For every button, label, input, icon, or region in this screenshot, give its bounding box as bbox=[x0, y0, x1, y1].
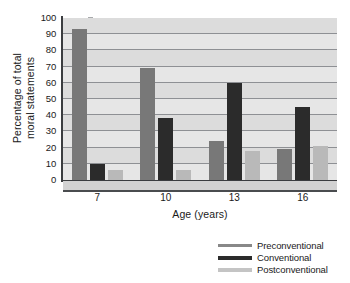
x-tick-label: 13 bbox=[229, 192, 240, 204]
bar-conventional-age-16 bbox=[295, 107, 310, 180]
y-tick-label: 80 bbox=[30, 46, 56, 56]
y-tick-label: 10 bbox=[30, 159, 56, 169]
y-axis-title-line-1: Percentage of total bbox=[11, 53, 24, 143]
legend-swatch-conventional bbox=[218, 256, 252, 260]
plot-band bbox=[63, 67, 337, 83]
y-tick-label: 100 bbox=[30, 13, 56, 23]
x-axis-title: Age (years) bbox=[63, 208, 337, 220]
x-axis-tick-labels: 7101316 bbox=[63, 192, 337, 206]
legend-label: Preconventional bbox=[257, 241, 324, 251]
y-tick-label: 40 bbox=[30, 110, 56, 120]
plot-band bbox=[63, 34, 337, 50]
gridline bbox=[63, 82, 337, 83]
bar-postconventional-age-10 bbox=[176, 170, 191, 180]
bar-conventional-age-7 bbox=[90, 164, 105, 180]
bar-postconventional-age-13 bbox=[245, 151, 260, 180]
x-tick-label: 7 bbox=[95, 192, 100, 204]
legend-swatch-preconventional bbox=[218, 244, 252, 247]
y-axis-tick-labels: 0102030405060708090100 bbox=[30, 18, 56, 180]
legend-item-preconventional: Preconventional bbox=[218, 240, 328, 251]
gridline bbox=[63, 66, 337, 67]
bar-preconventional-age-16 bbox=[277, 149, 292, 180]
legend-swatch-postconventional bbox=[218, 268, 252, 272]
y-tick-label: 50 bbox=[30, 94, 56, 104]
bar-preconventional-age-13 bbox=[209, 141, 224, 180]
y-tick-label: 60 bbox=[30, 78, 56, 88]
legend-item-conventional: Conventional bbox=[218, 252, 328, 263]
bar-conventional-age-10 bbox=[158, 118, 173, 180]
gridline bbox=[63, 33, 337, 34]
bar-conventional-age-13 bbox=[227, 83, 242, 180]
y-tick-label: 30 bbox=[30, 127, 56, 137]
y-tick-label: 20 bbox=[30, 143, 56, 153]
y-tick-label: 90 bbox=[30, 29, 56, 39]
x-tick-label: 10 bbox=[160, 192, 171, 204]
bar-preconventional-age-7 bbox=[72, 29, 87, 180]
bar-preconventional-age-10 bbox=[140, 68, 155, 180]
bar-postconventional-age-7 bbox=[108, 170, 123, 180]
gridline bbox=[63, 49, 337, 50]
x-tick-label: 16 bbox=[297, 192, 308, 204]
legend-label: Postconventional bbox=[257, 265, 328, 275]
bar-postconventional-age-16 bbox=[313, 146, 328, 180]
legend-label: Conventional bbox=[257, 253, 311, 263]
y-tick-label: 0 bbox=[30, 175, 56, 185]
axis-baseplate bbox=[63, 181, 337, 192]
legend-item-postconventional: Postconventional bbox=[218, 264, 328, 275]
bar-chart-figure: Percentage of total moral statements 010… bbox=[0, 0, 350, 283]
plot-area bbox=[63, 18, 337, 180]
legend: PreconventionalConventionalPostconventio… bbox=[218, 240, 328, 275]
gridline bbox=[63, 98, 337, 99]
y-tick-label: 70 bbox=[30, 62, 56, 72]
